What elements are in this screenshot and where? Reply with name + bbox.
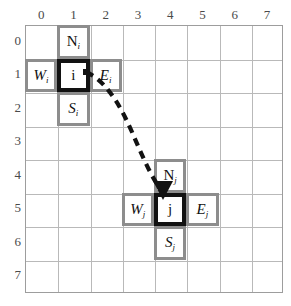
cell-N-i-label: Ni [67,34,80,49]
cell-N-j-subscript: j [174,175,177,185]
cell-E-i[interactable]: Ei [90,59,122,93]
cell-E-j-fill: Ej [189,196,215,224]
col-tick-4: 4 [160,8,180,22]
cell-S-j-fill: Sj [157,229,183,257]
row-tick-0: 0 [5,34,21,48]
cell-N-j-fill: Nj [157,162,183,190]
row-tick-4: 4 [5,168,21,182]
cell-i-fill: i [61,63,85,89]
row-tick-6: 6 [5,235,21,249]
col-tick-6: 6 [225,8,245,22]
grid-line-horizontal [26,261,282,262]
grid-line-vertical [220,26,221,292]
col-tick-0: 0 [31,8,51,22]
col-tick-5: 5 [192,8,212,22]
cell-N-j[interactable]: Nj [154,159,186,193]
grid-line-vertical [123,26,124,292]
cell-S-i-label: Si [68,101,78,116]
cell-W-i-label: Wi [34,68,49,83]
cell-W-i[interactable]: Wi [25,59,57,93]
row-tick-2: 2 [5,101,21,115]
cell-S-i-fill: Si [60,95,86,123]
cell-N-j-label: Nj [163,168,176,183]
col-tick-3: 3 [128,8,148,22]
grid-line-vertical [187,26,188,292]
col-tick-7: 7 [257,8,277,22]
row-tick-7: 7 [5,268,21,282]
cell-W-j-label: Wj [130,202,145,217]
row-tick-1: 1 [5,67,21,81]
col-tick-1: 1 [63,8,83,22]
cell-E-j[interactable]: Ej [186,193,218,227]
cell-W-i-fill: Wi [28,62,54,90]
cell-W-j-fill: Wj [125,196,151,224]
cell-S-j-subscript: j [173,242,176,252]
cell-S-i[interactable]: Si [57,92,89,126]
cell-j-fill: j [158,197,182,223]
cell-j[interactable]: j [154,193,186,227]
row-tick-5: 5 [5,201,21,215]
cell-E-j-subscript: j [206,209,209,219]
cell-S-j-label: Sj [165,235,175,250]
grid-line-horizontal [26,127,282,128]
cell-E-i-label: Ei [100,68,112,83]
cell-E-i-subscript: i [109,75,112,85]
cell-W-j[interactable]: Wj [122,193,154,227]
cell-S-j[interactable]: Sj [154,226,186,260]
cell-N-i-fill: Ni [60,28,86,56]
cell-E-j-label: Ej [197,202,209,217]
col-tick-2: 2 [96,8,116,22]
row-tick-3: 3 [5,134,21,148]
figure-canvas: 01234567 01234567 NiWiiEiSiNjWjjEjSj [0,0,291,306]
cell-j-label: j [168,202,172,217]
cell-N-i[interactable]: Ni [57,25,89,59]
cell-W-i-subscript: i [46,75,49,85]
cell-i-label: i [71,68,75,83]
cell-i[interactable]: i [57,59,89,93]
cell-N-i-subscript: i [78,41,81,51]
cell-W-j-subscript: j [143,209,146,219]
cell-E-i-fill: Ei [93,62,119,90]
grid-line-vertical [252,26,253,292]
cell-S-i-subscript: i [76,108,79,118]
